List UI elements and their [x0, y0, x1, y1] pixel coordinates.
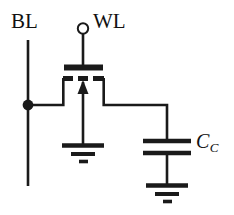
word-line-label: WL — [93, 11, 126, 32]
bit-line-junction-dot — [23, 100, 34, 111]
capacitor-label: CC — [196, 131, 219, 154]
transistor-drain-to-capacitor-wire — [104, 78, 167, 141]
transistor-bulk-arrow-icon — [78, 80, 89, 94]
word-line-terminal-circle-icon — [78, 23, 88, 33]
bit-line-label: BL — [11, 11, 38, 32]
transistor-source-wire — [28, 78, 63, 105]
circuit-schematic-figure: BL WL CC — [0, 0, 234, 215]
capacitor-label-base: C — [196, 130, 209, 152]
capacitor-label-subscript: C — [210, 140, 219, 155]
